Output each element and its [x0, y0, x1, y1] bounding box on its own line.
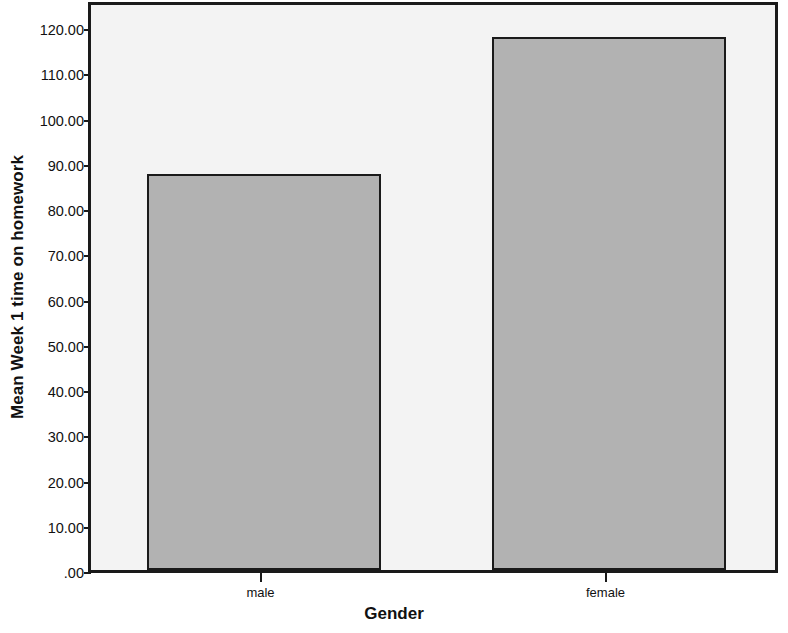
y-tick-label: 10.00 — [10, 520, 84, 536]
y-tick-label: 70.00 — [10, 248, 84, 264]
x-axis-ticks: malefemale — [0, 573, 788, 633]
x-tick-mark — [605, 573, 607, 582]
y-tick-label: 110.00 — [10, 67, 84, 83]
y-tick-label: 120.00 — [10, 22, 84, 38]
bar-female[interactable] — [492, 37, 726, 570]
x-axis-title: Gender — [0, 604, 788, 624]
x-tick-mark — [260, 573, 262, 582]
y-tick-label: 50.00 — [10, 339, 84, 355]
plot-area — [88, 2, 778, 573]
y-tick-label: 80.00 — [10, 203, 84, 219]
bar-chart-figure: Mean Week 1 time on homework .0010.0020.… — [0, 0, 788, 633]
x-tick-label-female: female — [586, 585, 625, 600]
y-axis-ticks: .0010.0020.0030.0040.0050.0060.0070.0080… — [8, 0, 84, 633]
y-tick-label: 90.00 — [10, 158, 84, 174]
y-tick-label: 20.00 — [10, 475, 84, 491]
y-tick-label: 40.00 — [10, 384, 84, 400]
x-tick-label-male: male — [246, 585, 274, 600]
y-tick-label: 30.00 — [10, 429, 84, 445]
plot-inner — [91, 5, 775, 570]
bar-male[interactable] — [147, 174, 381, 570]
y-tick-label: 60.00 — [10, 294, 84, 310]
y-tick-label: 100.00 — [10, 113, 84, 129]
